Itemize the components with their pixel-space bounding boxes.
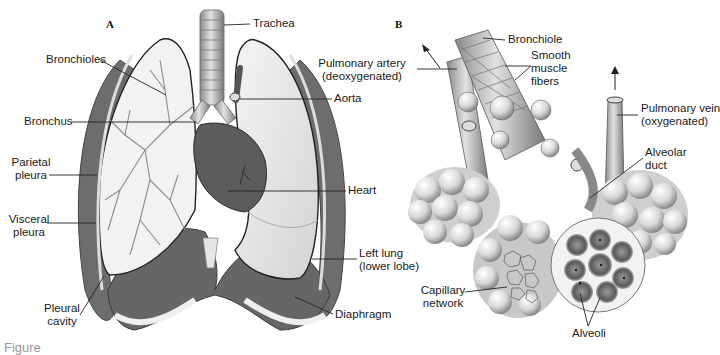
label-bronchus: Bronchus	[24, 115, 73, 128]
panel-a-letter: A	[106, 18, 114, 30]
label-left-lung: Left lung (lower lobe)	[359, 247, 419, 273]
label-diaphragm: Diaphragm	[335, 308, 391, 321]
figure-caption-fragment: Figure	[4, 340, 41, 355]
label-alveolar-duct: Alveolar duct	[645, 146, 687, 172]
label-parietal-pleura: Parietal pleura	[10, 156, 52, 182]
alveoli-cross-section	[551, 218, 645, 312]
label-pleural-cavity: Pleural cavity	[42, 302, 82, 328]
label-heart: Heart	[348, 184, 376, 197]
label-visceral-pleura: Visceral pleura	[8, 213, 50, 239]
trachea-shape	[190, 10, 236, 124]
label-alveoli: Alveoli	[572, 327, 606, 340]
label-pulmonary-artery: Pulmonary artery (deoxygenated)	[306, 57, 418, 83]
label-bronchioles: Bronchioles	[46, 53, 106, 66]
label-pulmonary-vein: Pulmonary vein (oxygenated)	[641, 102, 720, 128]
panel-b-letter: B	[395, 18, 402, 30]
alveolar-cluster-left	[408, 167, 500, 247]
label-trachea: Trachea	[253, 17, 295, 30]
label-bronchiole: Bronchiole	[508, 33, 562, 46]
label-aorta: Aorta	[334, 92, 362, 105]
label-smooth-muscle-fibers: Smooth muscle fibers	[531, 49, 571, 88]
label-capillary-network: Capillary network	[420, 284, 466, 310]
